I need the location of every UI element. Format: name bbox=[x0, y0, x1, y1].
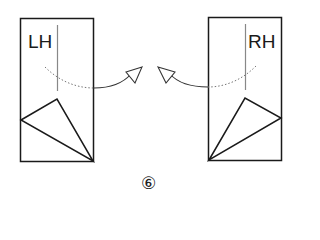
left-fold-triangle bbox=[21, 99, 93, 161]
left-arrowhead-icon bbox=[126, 67, 142, 83]
right-fold-arrow-dotted bbox=[208, 66, 256, 87]
right-hand-label: RH bbox=[248, 32, 275, 51]
left-fold-arrow-dotted bbox=[45, 67, 94, 88]
right-arrowhead-icon bbox=[158, 67, 175, 83]
left-hand-label: LH bbox=[28, 32, 52, 51]
step-number: ⑥ bbox=[141, 175, 156, 192]
right-fold-triangle bbox=[209, 98, 281, 160]
right-fold-arrow-solid bbox=[170, 74, 208, 87]
left-fold-arrow-solid bbox=[94, 74, 131, 88]
